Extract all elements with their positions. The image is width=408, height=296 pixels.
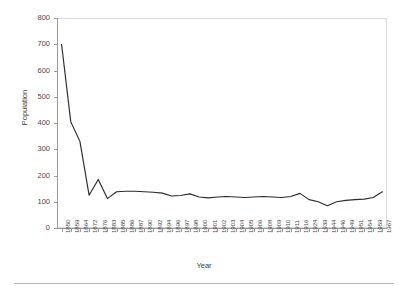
x-tick-mark xyxy=(208,229,209,232)
footer-divider xyxy=(14,283,394,284)
x-tick-mark xyxy=(162,229,163,232)
x-tick-mark xyxy=(254,229,255,232)
x-tick-mark xyxy=(181,229,182,232)
data-series-layer xyxy=(57,18,387,228)
x-tick-mark xyxy=(364,229,365,232)
x-tick-mark xyxy=(382,229,383,232)
x-tick-mark xyxy=(199,229,200,232)
x-tick-mark xyxy=(144,229,145,232)
y-tick-mark xyxy=(54,228,57,229)
x-tick-mark xyxy=(346,229,347,232)
x-axis-title: Year xyxy=(0,261,408,270)
y-tick-label: 300 xyxy=(22,145,50,153)
y-tick-label: 500 xyxy=(22,93,50,101)
x-tick-mark xyxy=(80,229,81,232)
series-line-population xyxy=(62,44,383,205)
x-tick-mark xyxy=(135,229,136,232)
x-tick-mark xyxy=(227,229,228,232)
y-tick-label: 0 xyxy=(22,224,50,232)
x-tick-mark xyxy=(126,229,127,232)
y-tick-label: 600 xyxy=(22,67,50,75)
x-tick-mark xyxy=(300,229,301,232)
x-tick-mark xyxy=(327,229,328,232)
x-tick-mark xyxy=(217,229,218,232)
y-tick-label: 200 xyxy=(22,172,50,180)
x-tick-mark xyxy=(236,229,237,232)
x-tick-mark xyxy=(272,229,273,232)
y-tick-label: 400 xyxy=(22,119,50,127)
x-tick-mark xyxy=(62,229,63,232)
x-tick-mark xyxy=(282,229,283,232)
y-tick-label: 100 xyxy=(22,198,50,206)
y-tick-label: 800 xyxy=(22,14,50,22)
x-tick-mark xyxy=(263,229,264,232)
x-tick-mark xyxy=(153,229,154,232)
x-tick-mark xyxy=(172,229,173,232)
x-tick-mark xyxy=(309,229,310,232)
x-tick-mark xyxy=(291,229,292,232)
x-tick-mark xyxy=(117,229,118,232)
x-tick-mark xyxy=(318,229,319,232)
x-tick-mark xyxy=(89,229,90,232)
x-tick-mark xyxy=(71,229,72,232)
x-tick-mark xyxy=(373,229,374,232)
y-axis-title: Population xyxy=(20,68,29,148)
x-tick-mark xyxy=(355,229,356,232)
x-tick-mark xyxy=(98,229,99,232)
chart-figure: Population Year 010020030040050060070080… xyxy=(0,0,408,296)
x-tick-mark xyxy=(337,229,338,232)
x-tick-mark xyxy=(190,229,191,232)
y-tick-label: 700 xyxy=(22,40,50,48)
x-tick-mark xyxy=(245,229,246,232)
x-tick-mark xyxy=(107,229,108,232)
